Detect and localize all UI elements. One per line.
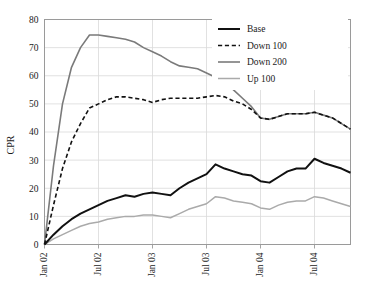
legend-label-down-200: Down 200 — [247, 57, 287, 67]
y-tick-label: 50 — [29, 99, 39, 109]
y-tick-label: 80 — [29, 15, 39, 25]
y-tick-label: 10 — [29, 212, 39, 222]
y-tick-label: 70 — [29, 43, 39, 53]
legend-label-down-100: Down 100 — [247, 41, 287, 51]
x-axis-tick-marks — [45, 245, 315, 249]
legend-label-up-100: Up 100 — [247, 74, 275, 84]
y-tick-label: 20 — [29, 184, 39, 194]
x-tick-label: Jan 04 — [255, 252, 265, 277]
y-axis-tick-labels: 01020304050607080 — [29, 15, 39, 250]
y-tick-label: 60 — [29, 71, 39, 81]
x-tick-label: Jan 02 — [39, 252, 49, 277]
x-tick-label: Jul 03 — [201, 252, 211, 275]
x-tick-label: Jul 04 — [309, 252, 319, 275]
x-tick-label: Jan 03 — [147, 252, 157, 277]
cpr-line-chart: 01020304050607080 Jan 02Jul 02Jan 03Jul … — [0, 0, 365, 289]
y-tick-label: 40 — [29, 127, 39, 137]
x-tick-label: Jul 02 — [93, 252, 103, 275]
legend-label-base: Base — [247, 24, 265, 34]
y-tick-label: 0 — [34, 240, 39, 250]
y-tick-label: 30 — [29, 156, 39, 166]
chart-container: 01020304050607080 Jan 02Jul 02Jan 03Jul … — [0, 0, 365, 289]
x-axis-tick-labels: Jan 02Jul 02Jan 03Jul 03Jan 04Jul 04 — [39, 252, 319, 277]
y-axis-title: CPR — [5, 135, 16, 154]
y-axis-title-label: CPR — [5, 135, 16, 154]
chart-legend: BaseDown 100Down 200Up 100 — [212, 18, 348, 90]
